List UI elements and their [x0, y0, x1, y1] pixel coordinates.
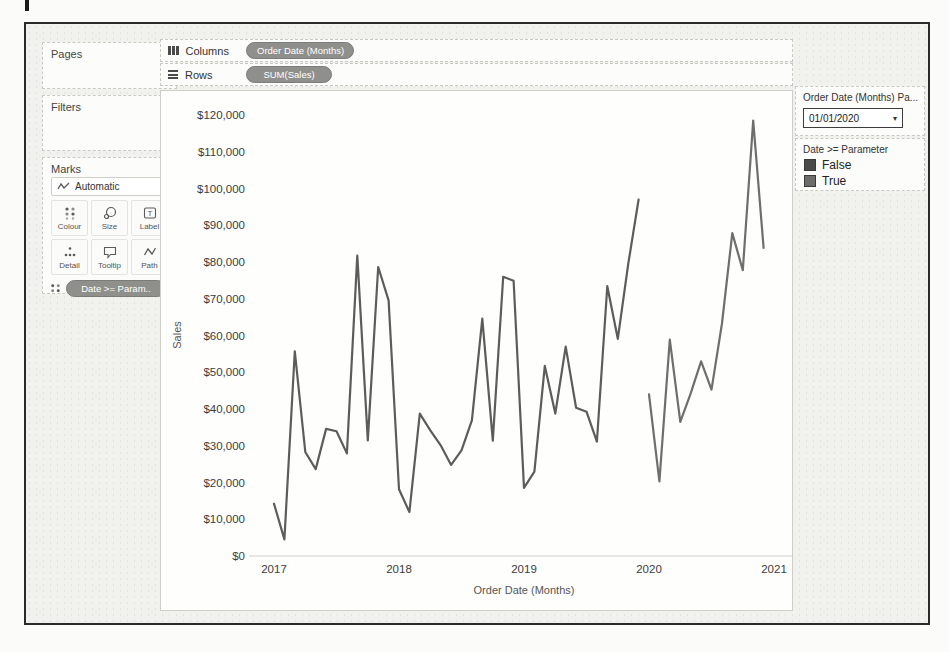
colour-legend-card: Date >= Parameter False True	[795, 138, 925, 191]
colour-grid-icon	[63, 206, 77, 220]
size-icon	[103, 206, 117, 220]
colour-grid-icon	[49, 282, 62, 295]
columns-shelf-label: Columns	[186, 45, 246, 57]
false-colour-swatch	[804, 159, 816, 171]
x-tick-label: 2019	[511, 563, 537, 575]
series-line-false[interactable]	[274, 200, 639, 540]
y-tick-label: $40,000	[203, 403, 245, 415]
figure-frame: Pages Filters Marks Automatic ▾ Colour	[24, 22, 930, 625]
legend-item-label: True	[822, 174, 846, 188]
label-button-label: Label	[140, 222, 160, 231]
colour-encoding-pill[interactable]: Date >= Param..	[66, 280, 166, 297]
series-line-true[interactable]	[649, 121, 764, 482]
path-icon	[143, 245, 157, 259]
chart-card: $0$10,000$20,000$30,000$40,000$50,000$60…	[160, 90, 793, 611]
tooltip-button-label: Tooltip	[98, 261, 121, 270]
rows-shelf[interactable]: Rows SUM(Sales)	[160, 63, 793, 86]
svg-text:T: T	[147, 209, 152, 218]
parameter-dropdown[interactable]: 01/01/2020 ▾	[803, 108, 903, 128]
y-tick-label: $30,000	[203, 440, 245, 452]
filters-shelf[interactable]: Filters	[42, 95, 177, 151]
marks-button-grid: Colour Size T Label	[51, 200, 170, 275]
page-text-fragment	[25, 0, 29, 11]
legend-item-label: False	[822, 158, 851, 172]
chevron-down-icon: ▾	[893, 114, 897, 123]
x-tick-label: 2020	[636, 563, 662, 575]
marks-card-label: Marks	[43, 158, 176, 175]
marks-pill-row: Date >= Param..	[49, 280, 166, 297]
line-mark-icon	[57, 182, 70, 191]
parameter-value: 01/01/2020	[809, 113, 859, 124]
tooltip-button[interactable]: Tooltip	[91, 239, 128, 275]
rows-pill[interactable]: SUM(Sales)	[246, 66, 332, 83]
x-axis-title: Order Date (Months)	[474, 584, 575, 596]
detail-button[interactable]: Detail	[51, 239, 88, 275]
colour-button-label: Colour	[58, 222, 82, 231]
legend-item-true[interactable]: True	[796, 173, 924, 189]
y-tick-label: $0	[232, 550, 245, 562]
colour-button[interactable]: Colour	[51, 200, 88, 236]
label-icon: T	[143, 206, 157, 220]
mark-type-value: Automatic	[75, 181, 119, 192]
filters-shelf-label: Filters	[43, 96, 176, 113]
y-tick-label: $10,000	[203, 513, 245, 525]
y-tick-label: $20,000	[203, 477, 245, 489]
x-tick-label: 2021	[761, 563, 787, 575]
columns-shelf[interactable]: Columns Order Date (Months)	[160, 39, 793, 62]
y-tick-label: $70,000	[203, 293, 245, 305]
columns-icon	[168, 46, 179, 55]
y-tick-label: $110,000	[198, 146, 245, 158]
true-colour-swatch	[804, 175, 816, 187]
rows-icon	[168, 70, 178, 79]
y-tick-label: $120,000	[197, 109, 245, 121]
legend-title: Date >= Parameter	[796, 139, 924, 157]
columns-pill[interactable]: Order Date (Months)	[246, 42, 354, 59]
detail-icon	[63, 245, 77, 259]
pages-shelf-label: Pages	[43, 43, 176, 60]
rows-shelf-label: Rows	[185, 69, 245, 81]
tooltip-icon	[103, 245, 117, 259]
size-button[interactable]: Size	[91, 200, 128, 236]
sales-line-chart: $0$10,000$20,000$30,000$40,000$50,000$60…	[161, 91, 794, 612]
y-tick-label: $80,000	[203, 256, 245, 268]
parameter-card: Order Date (Months) Pa... 01/01/2020 ▾	[795, 86, 925, 136]
pages-shelf[interactable]: Pages	[42, 42, 177, 89]
y-tick-label: $90,000	[203, 219, 245, 231]
mark-type-dropdown[interactable]: Automatic ▾	[51, 177, 170, 196]
legend-item-false[interactable]: False	[796, 157, 924, 173]
marks-card: Marks Automatic ▾ Colour	[42, 157, 177, 294]
detail-button-label: Detail	[59, 261, 79, 270]
y-tick-label: $50,000	[203, 366, 245, 378]
y-axis-title: Sales	[171, 321, 183, 349]
x-tick-label: 2017	[261, 563, 287, 575]
parameter-card-title: Order Date (Months) Pa...	[796, 87, 924, 103]
y-tick-label: $100,000	[197, 183, 245, 195]
y-tick-label: $60,000	[203, 330, 245, 342]
x-tick-label: 2018	[386, 563, 412, 575]
size-button-label: Size	[102, 222, 118, 231]
path-button-label: Path	[141, 261, 157, 270]
